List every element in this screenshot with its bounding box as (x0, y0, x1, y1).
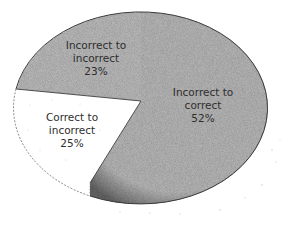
label-percent: 52% (191, 112, 214, 124)
label-line: incorrect (49, 124, 95, 136)
label-percent: 25% (60, 137, 83, 149)
label-percent: 23% (84, 65, 107, 77)
label-line: correct (185, 99, 222, 111)
label-line: Correct to (46, 111, 98, 123)
pie-chart: Incorrect to incorrect 23% Incorrect to … (0, 0, 296, 232)
label-line: incorrect (73, 52, 119, 64)
label-line: Incorrect to (66, 39, 126, 51)
label-line: Incorrect to (173, 86, 233, 98)
